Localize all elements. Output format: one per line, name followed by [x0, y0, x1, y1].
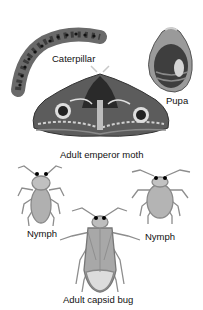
nymph-left-illustration [18, 166, 64, 226]
emperor-moth-illustration [33, 66, 169, 136]
nymph-right-label: Nymph [145, 232, 175, 242]
nymph-right-illustration [132, 170, 190, 224]
adult-capsid-bug-label: Adult capsid bug [63, 295, 133, 305]
capsid-bug-illustration [60, 208, 140, 292]
pupa-label: Pupa [166, 96, 188, 106]
pupa-illustration [149, 28, 193, 92]
caterpillar-label: Caterpillar [52, 54, 95, 64]
adult-moth-label: Adult emperor moth [60, 150, 143, 160]
nymph-left-label: Nymph [27, 229, 57, 239]
life-cycle-figure: Caterpillar Pupa Adult emperor moth Nymp… [0, 0, 203, 310]
